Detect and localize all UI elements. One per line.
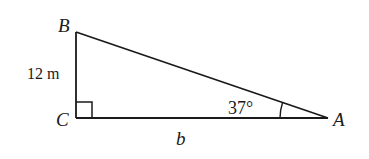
vertex-label-c: C — [56, 110, 69, 129]
hypotenuse-ab — [76, 32, 328, 118]
side-label-bc: 12 m — [27, 66, 59, 82]
vertex-label-b: B — [58, 16, 70, 35]
vertex-label-a: A — [333, 110, 345, 129]
side-label-ca: b — [176, 129, 186, 148]
angle-label-a: 37° — [228, 99, 253, 117]
triangle-figure: B C A 12 m b 37° — [0, 0, 369, 159]
right-angle-marker-icon — [76, 102, 92, 118]
angle-arc-a-icon — [280, 102, 283, 118]
